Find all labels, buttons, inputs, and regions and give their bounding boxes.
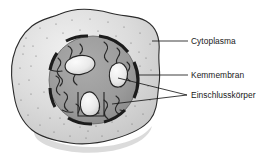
- inclusion-body-right: [109, 63, 127, 87]
- label-kernmembran: Kemmembran: [191, 70, 244, 80]
- cell-diagram: Cytoplasma Kemmembran Einschlusskörper: [0, 0, 269, 161]
- label-cytoplasma: Cytoplasma: [191, 36, 236, 46]
- label-einschlusskoerper: Einschlusskörper: [191, 90, 256, 100]
